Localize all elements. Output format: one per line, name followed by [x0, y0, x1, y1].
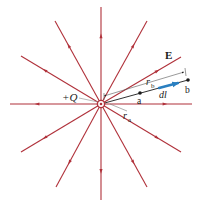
field-label: E — [165, 49, 172, 61]
point-b-label: b — [185, 85, 190, 95]
field-arrow-icon — [163, 102, 168, 105]
point-charge-core — [100, 103, 103, 106]
ra-label: r a — [123, 110, 132, 124]
field-arrow-icon — [99, 169, 102, 174]
field-arrow-icon — [68, 160, 72, 165]
field-line — [56, 104, 101, 187]
field-line — [21, 56, 101, 104]
field-arrow-icon — [35, 102, 40, 105]
electric-field-diagram: +Q E a b dl r a r b — [0, 0, 200, 210]
field-arrow-icon — [68, 44, 72, 49]
rb-label: r b — [146, 76, 155, 90]
dl-vector — [159, 83, 178, 88]
svg-text:r: r — [123, 110, 127, 121]
field-arrow-icon — [131, 44, 135, 49]
field-arrow-icon — [43, 135, 48, 139]
rb-tick — [185, 68, 186, 76]
svg-text:r: r — [146, 76, 150, 87]
field-arrow-icon — [131, 160, 135, 165]
field-arrow-icon — [99, 34, 102, 39]
field-arrow-icon — [154, 70, 159, 74]
dl-label: dl — [159, 89, 167, 100]
field-arrow-icon — [154, 135, 159, 139]
svg-text:b: b — [151, 82, 155, 90]
field-line — [21, 104, 101, 152]
point-b-dot — [186, 78, 190, 82]
point-a-dot — [138, 91, 142, 95]
diagram-canvas: +Q E a b dl r a r b — [0, 0, 200, 210]
charge-label: +Q — [62, 91, 77, 103]
field-line — [101, 104, 181, 152]
field-arrow-icon — [43, 69, 48, 73]
